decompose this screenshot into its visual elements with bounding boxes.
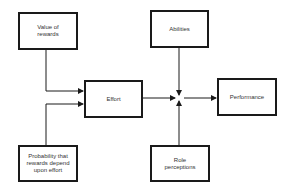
probability-label: Probability that rewards depend upon eff… [26, 153, 70, 174]
edge-value-to-effort [46, 49, 83, 91]
effort-label: Effort [106, 96, 120, 103]
abilities-label: Abilities [169, 26, 190, 33]
role-perceptions-box: Role perceptions [150, 145, 210, 182]
role-perceptions-label: Role perceptions [161, 157, 199, 171]
performance-box: Performance [217, 78, 277, 116]
value-of-rewards-box: Value of rewards [18, 12, 78, 50]
edge-probability-to-effort [46, 104, 83, 146]
performance-label: Performance [230, 94, 264, 101]
value-of-rewards-label: Value of rewards [30, 24, 66, 38]
effort-box: Effort [84, 80, 143, 118]
probability-box: Probability that rewards depend upon eff… [18, 145, 78, 182]
abilities-box: Abilities [150, 10, 209, 48]
